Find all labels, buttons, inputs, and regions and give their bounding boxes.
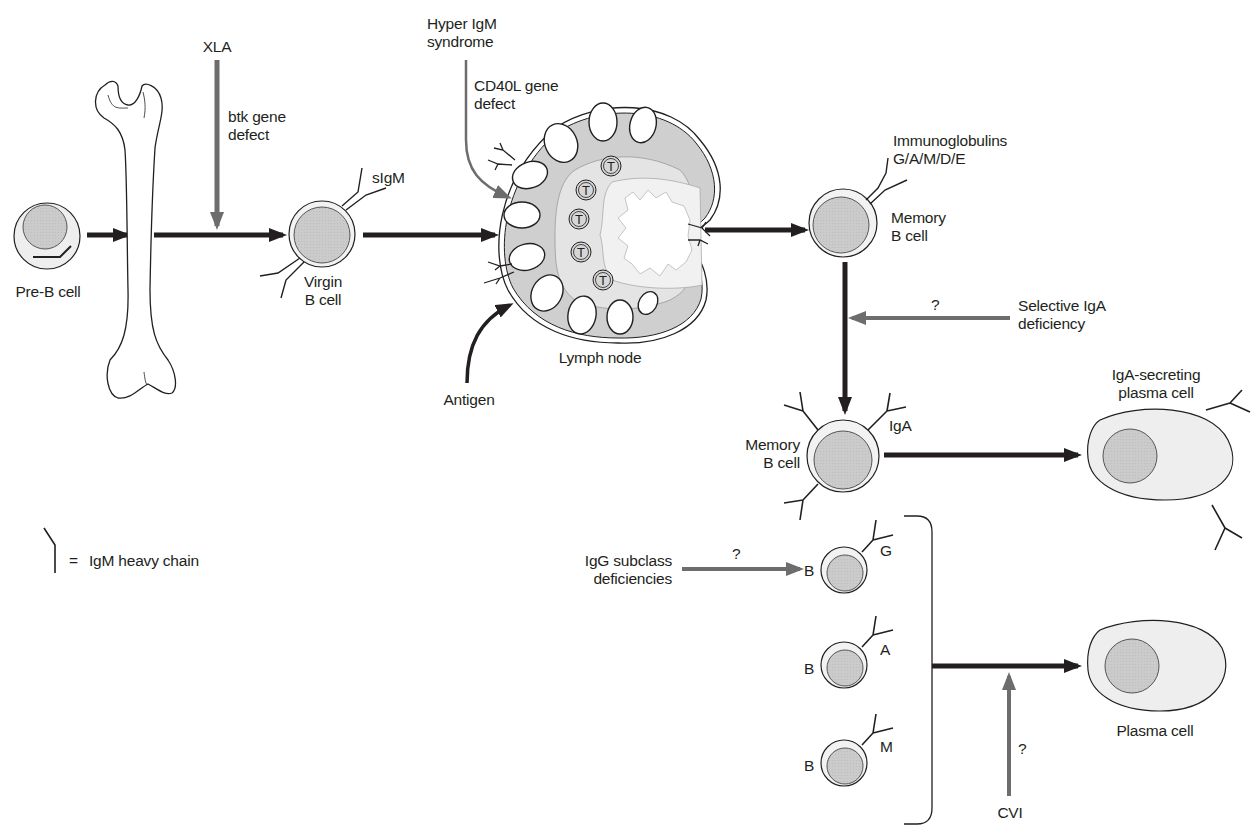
bone-marrow-icon [95,81,175,398]
antigen-arrow [467,305,510,383]
selective-iga-label: Selective IgAdeficiency [1018,297,1106,333]
xla-label: XLA [196,38,238,56]
igg-subclass-question-mark: ? [732,545,740,563]
pre-b-cell-label: Pre-B cell [0,283,96,301]
isotype-a-label: A [880,641,890,659]
b-cell-g-letter: B [804,562,814,580]
plasma-cell-label: Plasma cell [1105,722,1205,740]
sigm-label: sIgM [372,169,405,187]
immunodeficiency-diagram: T T T T T [0,0,1257,839]
immunoglobulins-label: ImmunoglobulinsG/A/M/D/E [893,132,1007,168]
svg-text:T: T [582,183,590,198]
igg-subclass-label: IgG subclassdeficiencies [550,552,672,588]
b-cell-a-letter: B [804,660,814,678]
lymph-node-label: Lymph node [550,349,650,367]
igm-heavy-chain-legend-icon [44,528,55,573]
cvi-label: CVI [990,804,1030,822]
isotype-g-label: G [880,542,892,560]
legend-equals: = [69,552,78,570]
cd40l-defect-label: CD40L genedefect [474,77,558,113]
virgin-b-cell-label: VirginB cell [296,273,350,309]
svg-text:T: T [599,273,607,288]
iga-plasma-cell-label: IgA-secretingplasma cell [1100,366,1212,402]
t-cell: T [571,242,591,262]
subclass-bracket [904,516,932,824]
memory-b-cell-label: MemoryB cell [891,209,946,245]
memory-b-cell-iga-label: MemoryB cell [738,436,800,472]
svg-text:T: T [607,159,615,174]
plasma-cell [1088,620,1226,711]
t-cell: T [593,270,613,290]
cvi-question-mark: ? [1018,740,1026,758]
isotype-m-label: M [880,738,893,756]
hyper-igm-label: Hyper IgMsyndrome [427,15,497,51]
b-cell-m-letter: B [804,757,814,775]
iga-plasma-cell [1088,390,1250,550]
svg-text:T: T [577,245,585,260]
pre-b-cell [14,203,80,269]
svg-text:T: T [575,212,583,227]
t-cell: T [576,180,596,200]
antigen-label: Antigen [432,391,506,409]
t-cell: T [569,209,589,229]
legend-text: IgM heavy chain [89,552,199,570]
t-cell: T [601,156,621,176]
btk-defect-label: btk genedefect [228,108,286,144]
iga-receptor-label: IgA [889,417,912,435]
selective-iga-question-mark: ? [931,296,939,314]
lymph-node: T T T T T [484,103,720,343]
